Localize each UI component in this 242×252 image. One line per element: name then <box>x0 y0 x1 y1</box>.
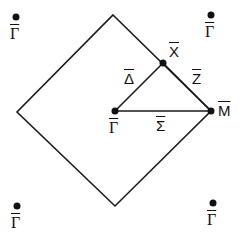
label-z: Z <box>192 71 201 86</box>
label-gamma-bottom-right: Γ <box>207 212 216 228</box>
label-gamma-bottom-left: Γ <box>11 215 20 231</box>
label-x: X <box>169 44 179 59</box>
point-gamma-top-left <box>13 14 20 21</box>
point-x <box>160 60 167 67</box>
label-sigma: Σ <box>156 118 165 133</box>
label-gamma-top-right: Γ <box>205 24 214 40</box>
point-gamma-bottom-right <box>210 200 217 207</box>
point-gamma-top-right <box>208 12 215 19</box>
label-delta: Δ <box>124 71 134 86</box>
label-gamma-center: Γ <box>109 120 118 136</box>
point-gamma-bottom-left <box>14 203 21 210</box>
line-delta <box>115 63 163 111</box>
label-gamma-top-left: Γ <box>10 26 19 42</box>
point-gamma-center <box>112 108 119 115</box>
point-m <box>208 108 215 115</box>
line-z <box>163 63 211 111</box>
label-m: M <box>218 103 231 118</box>
